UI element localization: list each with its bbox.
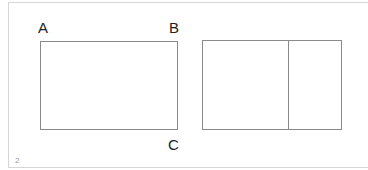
left-rectangle xyxy=(40,41,178,130)
label-c: C xyxy=(168,137,179,152)
right-rectangle xyxy=(202,40,342,130)
right-rectangle-divider xyxy=(288,40,289,130)
label-a: A xyxy=(38,20,48,35)
label-b: B xyxy=(169,20,179,35)
page-number: 2 xyxy=(15,157,19,165)
